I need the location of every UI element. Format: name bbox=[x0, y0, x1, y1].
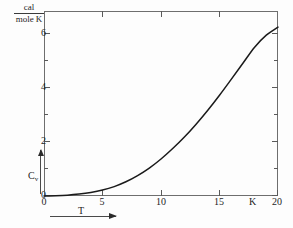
data-curve-svg bbox=[0, 0, 293, 228]
curve-cv bbox=[44, 27, 278, 196]
figure-heat-capacity-plot: cal mole K 0 2 4 6 0 5 10 15 20 K Cv T bbox=[0, 0, 293, 228]
